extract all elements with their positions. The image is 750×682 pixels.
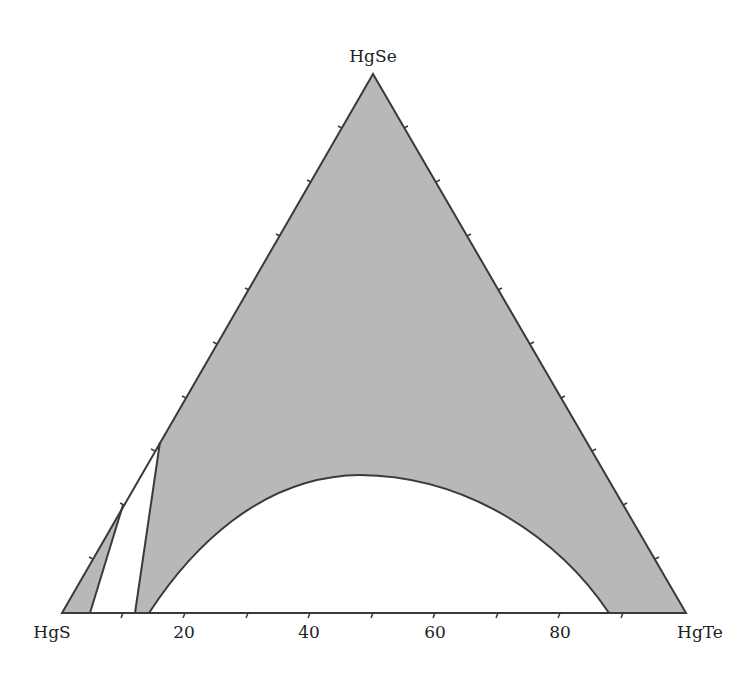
tick-label: 20	[173, 622, 195, 642]
tick-label: 60	[424, 622, 446, 642]
vertex-label-top: HgSe	[349, 46, 396, 66]
tick-label: 80	[549, 622, 571, 642]
vertex-label-right: HgTe	[677, 622, 723, 642]
vertex-label-left: HgS	[33, 622, 70, 642]
ternary-diagram: HgSe HgS HgTe 20 40 60 80	[0, 0, 750, 682]
tick-label: 40	[298, 622, 320, 642]
